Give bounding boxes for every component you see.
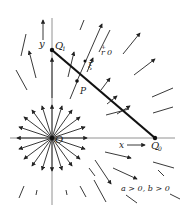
r-superscript: + bbox=[101, 43, 106, 50]
p-label: P bbox=[79, 86, 87, 96]
vector-field-diagram: y Q 1 P ξ r + 0 O x Q 0 a > 0, b > 0 bbox=[0, 0, 188, 214]
x-axis-label: x bbox=[119, 140, 124, 150]
q1-subscript: 1 bbox=[62, 45, 66, 52]
point-q1 bbox=[50, 48, 54, 52]
origin-label: O bbox=[55, 134, 63, 145]
q0-subscript: 0 bbox=[158, 145, 162, 152]
ray-op bbox=[77, 24, 102, 81]
y-axis-label: y bbox=[38, 38, 45, 49]
point-origin bbox=[50, 136, 54, 140]
condition-label: a > 0, b > 0 bbox=[121, 184, 170, 193]
point-p bbox=[75, 79, 79, 83]
xi-label: ξ bbox=[88, 61, 93, 70]
point-xi bbox=[84, 60, 87, 63]
segment-q1-q0 bbox=[52, 50, 155, 138]
r-suffix: 0 bbox=[107, 48, 112, 57]
arrow-through-p bbox=[70, 82, 77, 99]
